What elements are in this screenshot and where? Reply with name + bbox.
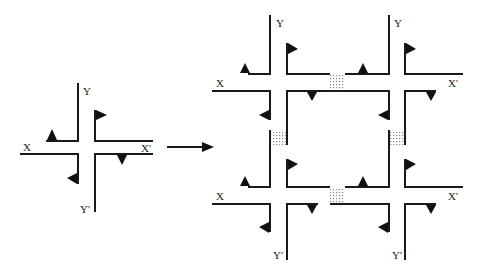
connector-right-vertical (390, 130, 404, 145)
label-y-prime: Y' (392, 249, 402, 261)
grid-top-right: Y X' (330, 15, 463, 145)
flag-down-icon (117, 155, 127, 165)
connector-left-vertical (271, 130, 286, 145)
flag-left-icon (67, 173, 77, 184)
label-x: X (216, 77, 224, 89)
label-y: Y (83, 85, 91, 97)
connector-top-horizontal (330, 75, 345, 90)
label-y-prime: Y' (80, 203, 90, 215)
grid-top-left: Y X (212, 15, 330, 145)
label-x-prime: X' (448, 77, 458, 89)
grid-bottom-left: X Y' (212, 130, 330, 261)
flag-right-icon (96, 110, 107, 120)
intersection-grid: Y X Y X' X Y' (212, 15, 463, 261)
connector-bottom-horizontal (330, 188, 345, 203)
label-x: X (23, 141, 31, 153)
label-x-prime: X' (448, 190, 458, 202)
transform-arrow-icon (167, 142, 214, 152)
label-y: Y (394, 17, 402, 29)
single-intersection: Y X X' Y' (20, 83, 153, 215)
label-x: X (216, 190, 224, 202)
intersection-diagram: Y X X' Y' Y X (0, 0, 481, 275)
label-y: Y (276, 17, 284, 29)
label-x-prime: X' (141, 142, 151, 154)
flag-up-icon (47, 129, 57, 140)
label-y-prime: Y' (273, 249, 283, 261)
grid-bottom-right: X' Y' (330, 130, 463, 261)
